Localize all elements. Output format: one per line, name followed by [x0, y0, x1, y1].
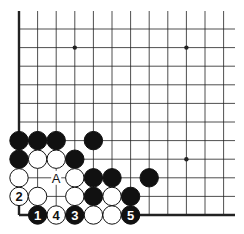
black-stone-move-5: 5 — [121, 206, 139, 224]
white-stone — [84, 206, 102, 224]
point-label-a: A — [52, 171, 61, 186]
move-number: 4 — [53, 208, 61, 223]
move-number: 2 — [15, 189, 22, 204]
black-stone — [66, 150, 84, 168]
black-stone — [140, 169, 158, 187]
white-stone — [47, 150, 65, 168]
white-stone — [103, 206, 121, 224]
white-stone-move-2: 2 — [10, 187, 28, 205]
black-stone-move-3: 3 — [66, 206, 84, 224]
move-number: 3 — [71, 208, 78, 223]
star-point-icon — [184, 157, 188, 161]
black-stone — [84, 131, 102, 149]
move-number: 1 — [34, 208, 41, 223]
black-stone — [103, 169, 121, 187]
white-stone — [103, 187, 121, 205]
black-stone — [28, 131, 46, 149]
white-stone — [28, 187, 46, 205]
black-stone — [84, 169, 102, 187]
black-stone — [121, 187, 139, 205]
black-stone — [84, 187, 102, 205]
board-markers: A — [51, 171, 61, 186]
move-number: 5 — [127, 208, 134, 223]
white-stone — [66, 187, 84, 205]
star-point-icon — [184, 45, 188, 49]
go-board: A 21435 — [0, 0, 244, 234]
black-stone — [10, 150, 28, 168]
white-stone — [10, 169, 28, 187]
black-stone-move-1: 1 — [28, 206, 46, 224]
black-stone — [10, 131, 28, 149]
white-stone — [28, 150, 46, 168]
white-stone — [66, 169, 84, 187]
black-stone — [47, 131, 65, 149]
star-point-icon — [73, 45, 77, 49]
white-stone-move-4: 4 — [47, 206, 65, 224]
